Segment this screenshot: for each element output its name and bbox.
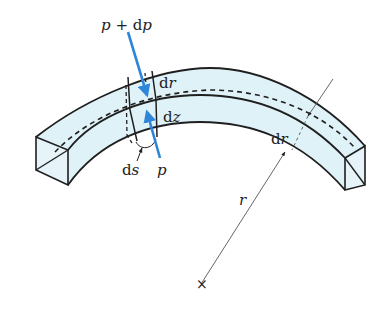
ds-arc	[136, 139, 156, 148]
ds-leader	[137, 148, 142, 161]
label-dr-right: dr	[271, 130, 289, 148]
label-dr-top: dr	[159, 74, 177, 92]
label-dz: dz	[163, 108, 181, 126]
label-p-plus-dp: p + dp	[101, 16, 152, 34]
label-p-bottom: p	[157, 161, 167, 179]
ring-segment-diagram: p + dp dr dz ds p dr r ×	[0, 0, 389, 311]
label-ds: ds	[122, 161, 140, 179]
center-mark: ×	[196, 276, 208, 292]
label-radius: r	[239, 191, 247, 209]
radius-line	[201, 152, 285, 284]
